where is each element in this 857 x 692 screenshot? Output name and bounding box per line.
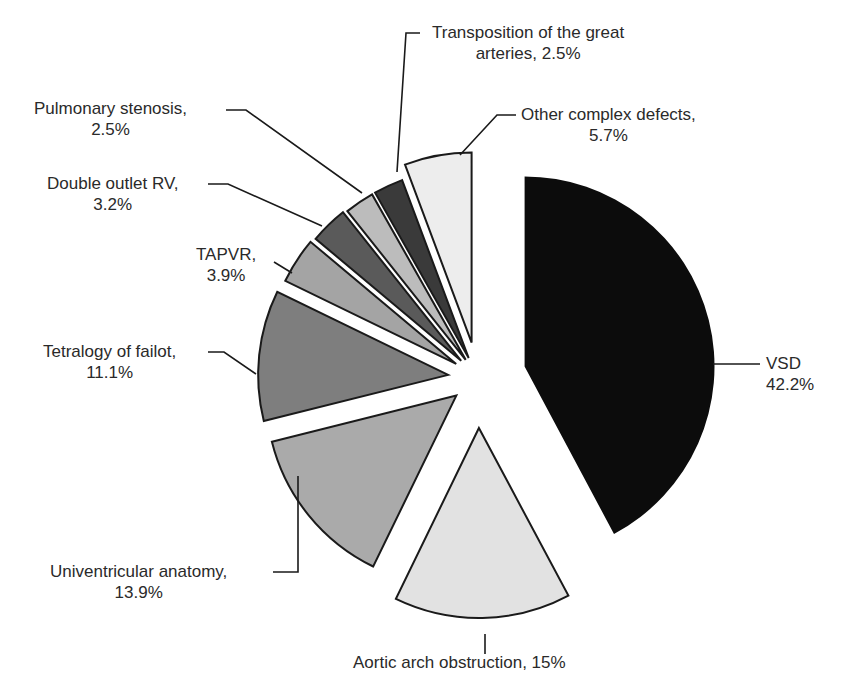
label-tga-value: arteries, 2.5% [432,43,624,64]
leader-tetralogy [208,352,256,374]
label-other-name: Other complex defects, [521,104,696,125]
label-dorv-value: 3.2% [47,194,178,215]
label-tapvr-value: 3.9% [196,265,256,286]
label-other: Other complex defects, 5.7% [521,104,696,146]
label-univentricular-name: Univentricular anatomy, [50,561,227,582]
leader-other [460,115,516,155]
pie-slices [258,153,714,618]
label-vsd-value: 42.2% [766,374,814,395]
label-tetralogy: Tetralogy of failot, 11.1% [43,341,176,383]
label-aortic: Aortic arch obstruction, 15% [353,652,566,673]
label-tga-name: Transposition of the great [432,22,624,43]
label-aortic-text: Aortic arch obstruction, 15% [353,652,566,673]
label-pulmonary: Pulmonary stenosis, 2.5% [34,98,187,140]
leader-tapvr [274,262,292,273]
label-univentricular-value: 13.9% [50,582,227,603]
label-dorv-name: Double outlet RV, [47,173,178,194]
label-vsd-name: VSD [766,353,814,374]
label-tapvr: TAPVR, 3.9% [196,244,256,286]
label-vsd: VSD 42.2% [766,353,814,395]
leader-pulmonary [226,110,362,193]
label-tapvr-name: TAPVR, [196,244,256,265]
label-other-value: 5.7% [521,125,696,146]
label-pulmonary-value: 2.5% [34,119,187,140]
label-tga: Transposition of the great arteries, 2.5… [432,22,624,64]
label-univentricular: Univentricular anatomy, 13.9% [50,561,227,603]
label-tetralogy-name: Tetralogy of failot, [43,341,176,362]
label-dorv: Double outlet RV, 3.2% [47,173,178,215]
leader-tga [397,33,420,172]
leader-dorv [208,184,322,226]
label-pulmonary-name: Pulmonary stenosis, [34,98,187,119]
pie-slice-vsd [525,176,715,534]
label-tetralogy-value: 11.1% [43,362,176,383]
